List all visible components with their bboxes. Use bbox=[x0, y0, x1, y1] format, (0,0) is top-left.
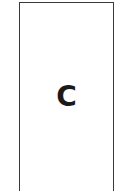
panel-label: C bbox=[20, 81, 113, 113]
panel-box: C bbox=[19, 2, 114, 191]
